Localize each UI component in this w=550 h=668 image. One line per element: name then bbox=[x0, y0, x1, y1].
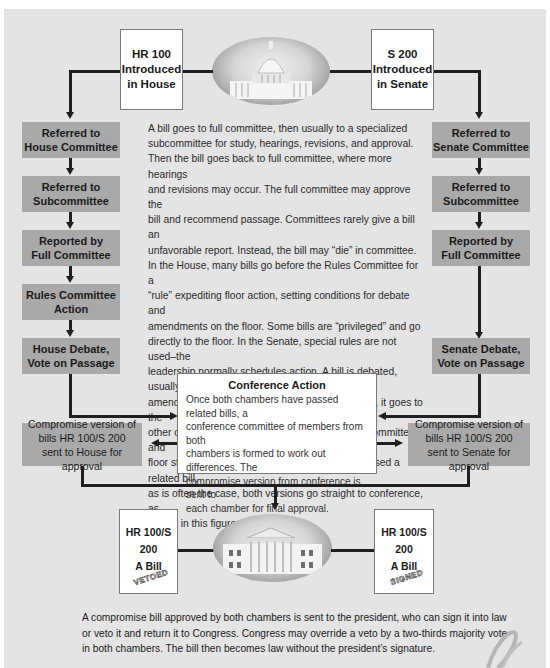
connector-house-left bbox=[69, 70, 120, 73]
house-step-debate: House Debate, Vote on Passage bbox=[22, 338, 120, 374]
vetoed-bill-box: HR 100/S 200 A Bill VETOED bbox=[119, 509, 178, 594]
president-description: A compromise bill approved by both chamb… bbox=[82, 610, 522, 657]
connector bbox=[331, 549, 374, 552]
connector bbox=[178, 549, 214, 552]
conference-title: Conference Action bbox=[186, 378, 368, 392]
house-step-referred-subcommittee: Referred to Subcommittee bbox=[22, 176, 120, 212]
connector-capitol-senate bbox=[330, 70, 371, 73]
connector bbox=[377, 442, 396, 445]
connector bbox=[81, 466, 84, 486]
signed-bill-label: HR 100/S 200 A Bill bbox=[375, 524, 433, 575]
capitol-icon bbox=[212, 37, 330, 105]
connector bbox=[478, 374, 481, 417]
arrow-down-icon bbox=[66, 168, 74, 175]
arrow-right-icon bbox=[395, 439, 403, 447]
compromise-house-box: Compromise version of bills HR 100/S 200… bbox=[22, 423, 142, 466]
senate-intro-box: S 200 Introduced in Senate bbox=[371, 29, 434, 110]
arrow-down-icon bbox=[66, 276, 74, 283]
connector bbox=[159, 442, 177, 445]
house-intro-box: HR 100 Introduced in House bbox=[120, 29, 183, 110]
senate-step-referred-committee: Referred to Senate Committee bbox=[432, 122, 530, 158]
white-house-icon bbox=[213, 514, 332, 582]
senate-step-debate: Senate Debate, Vote on Passage bbox=[432, 338, 530, 374]
arrow-down-icon bbox=[475, 222, 483, 229]
vetoed-bill-label: HR 100/S 200 A Bill bbox=[120, 524, 177, 575]
arrow-down-icon bbox=[475, 168, 483, 175]
house-step-rules: Rules Committee Action bbox=[22, 284, 120, 320]
arrow-down-icon bbox=[66, 222, 74, 229]
conference-description: Once both chambers have passed related b… bbox=[186, 393, 368, 515]
connector-senate-down bbox=[478, 70, 481, 113]
house-step-reported: Reported by Full Committee bbox=[22, 230, 120, 266]
connector bbox=[478, 266, 481, 334]
white-house-image bbox=[213, 514, 332, 582]
arrow-down-icon bbox=[66, 330, 74, 337]
arrow-down-icon bbox=[271, 503, 279, 510]
connector bbox=[274, 484, 277, 504]
compromise-senate-box: Compromise version of bills HR 100/S 200… bbox=[408, 423, 530, 466]
connector-house-down bbox=[69, 70, 72, 113]
connector bbox=[69, 374, 72, 417]
arrow-down-icon bbox=[475, 112, 483, 119]
senate-step-referred-subcommittee: Referred to Subcommittee bbox=[432, 176, 530, 212]
house-step-referred-committee: Referred to House Committee bbox=[22, 122, 120, 158]
conference-action-box: Conference Action Once both chambers hav… bbox=[177, 373, 377, 474]
arrow-left-icon bbox=[378, 412, 386, 420]
senate-step-reported: Reported by Full Committee bbox=[432, 230, 530, 266]
connector-house-capitol bbox=[183, 70, 213, 73]
capitol-image bbox=[212, 37, 330, 105]
connector bbox=[467, 466, 470, 486]
arrow-down-icon bbox=[66, 112, 74, 119]
decorative-swirl-icon bbox=[480, 628, 530, 668]
connector-senate-right bbox=[434, 70, 480, 73]
signed-bill-box: HR 100/S 200 A Bill SIGNED bbox=[374, 509, 434, 594]
arrow-left-icon bbox=[151, 439, 159, 447]
